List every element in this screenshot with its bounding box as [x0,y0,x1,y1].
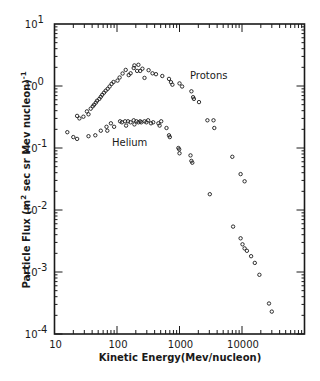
y-axis-label-rest: sec sr Mev nucleon) [21,79,32,195]
x-axis-label: Kinetic Energy(Mev/nucleon) [99,352,261,363]
y-tick-exponent: 1 [38,14,44,25]
x-tick-label: 10 [49,339,62,350]
y-axis-label-exp: -1 [20,71,28,79]
y-tick-exponent: -2 [38,200,48,211]
chart-background [0,0,320,381]
y-tick-exponent: -4 [38,324,48,335]
y-tick-exponent: -1 [38,138,48,149]
x-tick-label: 1000 [168,339,193,350]
y-axis-label-main: Particle Flux (m [21,200,32,289]
helium-label: Helium [112,137,147,148]
x-tick-label: 10000 [227,339,259,350]
y-axis-label: Particle Flux (m2 sec sr Mev nucleon)-1 [20,71,32,288]
y-tick-exponent: 0 [38,76,44,87]
flux-chart: 10100100010000 10110010-110-210-310-4 Pr… [0,0,320,381]
y-tick-exponent: -3 [38,262,48,273]
y-tick-label: 10 [25,329,38,340]
y-tick-label: 10 [25,19,38,30]
protons-label: Protons [190,70,227,81]
x-tick-label: 100 [108,339,127,350]
